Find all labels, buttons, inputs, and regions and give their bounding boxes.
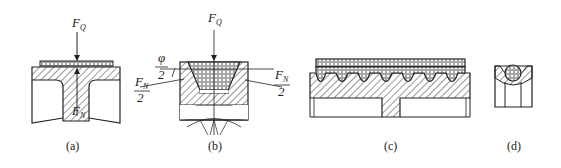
svg-text:Q: Q	[80, 23, 86, 32]
flat-belt	[40, 61, 113, 66]
angle-label: φ	[158, 50, 165, 65]
svg-text:2: 2	[137, 90, 144, 105]
pulley-rim	[310, 73, 470, 117]
svg-text:2: 2	[158, 67, 165, 82]
caption-d: (d)	[507, 139, 521, 153]
svg-text:N: N	[79, 111, 86, 120]
arrow-icon	[211, 55, 217, 61]
ribbed-belt-top	[316, 59, 465, 67]
panel-a: F Q F N (a)	[32, 15, 120, 153]
caption-c: (c)	[384, 139, 397, 153]
svg-text:N: N	[282, 75, 289, 84]
panel-c: (c)	[310, 59, 470, 153]
svg-text:2: 2	[278, 84, 285, 99]
caption-b: (b)	[208, 139, 222, 153]
panel-b: φ 2 F N 2 F N 2 F Q (b)	[134, 10, 290, 153]
panel-d: (d)	[495, 65, 532, 153]
caption-a: (a)	[66, 139, 79, 153]
svg-text:Q: Q	[216, 18, 222, 27]
arrow-icon	[74, 55, 80, 61]
round-belt	[505, 65, 521, 81]
belt-cross-section-diagram: F Q F N (a) φ 2 F N 2 F N 2 F Q	[0, 0, 561, 168]
